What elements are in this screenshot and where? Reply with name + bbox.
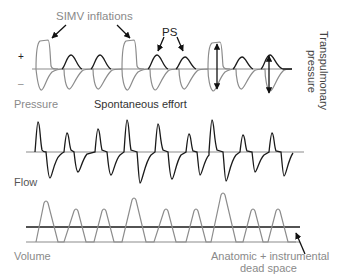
spontaneous-effort-label: Spontaneous effort: [94, 98, 187, 110]
volume-trace: [36, 193, 296, 242]
ps-label: PS: [162, 26, 177, 38]
simv-arrow-2: [117, 25, 130, 38]
transpulmonary-pressure-label: Transpulmonary pressure: [306, 31, 330, 111]
ps-arrow-2: [177, 37, 183, 51]
simv-inflations-label: SIMV inflations: [56, 10, 133, 22]
pressure-support-trace: [62, 55, 292, 69]
plus-sign: +: [18, 51, 24, 63]
transpulmonary-label-line2: pressure: [306, 50, 318, 93]
volume-label: Volume: [14, 250, 51, 262]
pressure-label: Pressure: [14, 98, 58, 110]
volume-panel: [26, 193, 305, 254]
ventilation-waveform-diagram: [0, 0, 338, 277]
pressure-negative-trace: [36, 69, 292, 91]
dead-space-label-line1: Anatomic + instrumental: [211, 250, 329, 262]
simv-arrow-1: [52, 25, 66, 38]
minus-sign: –: [18, 78, 24, 90]
flow-label: Flow: [14, 176, 37, 188]
transpulmonary-label-line1: Transpulmonary: [318, 31, 330, 110]
ps-arrow-1: [158, 37, 164, 51]
dead-space-label-line2: dead space: [240, 262, 297, 274]
flow-panel: [26, 120, 304, 183]
